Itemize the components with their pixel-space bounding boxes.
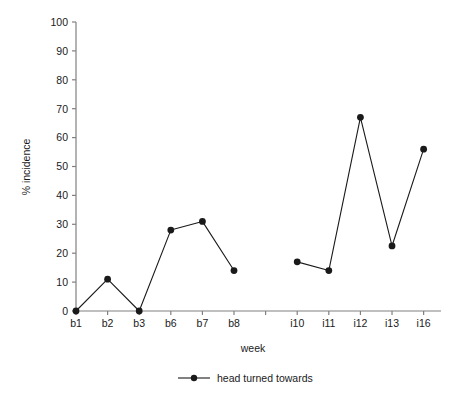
- x-axis-tick-label: b1: [70, 317, 82, 329]
- legend-marker-icon: [191, 375, 197, 381]
- y-axis-tick-label: 60: [56, 131, 68, 143]
- data-point-marker: [325, 267, 332, 274]
- line-chart: 0102030405060708090100 b1b2b3b6b7b8i10i1…: [0, 0, 455, 400]
- y-axis-title: % incidence: [20, 139, 32, 196]
- x-axis-tick-label: b6: [165, 317, 177, 329]
- x-axis-tick-label: b8: [228, 317, 240, 329]
- y-axis-tick-label: 80: [56, 74, 68, 86]
- y-axis-tick-label: 10: [56, 276, 68, 288]
- y-axis-tick-label: 100: [50, 16, 68, 28]
- x-axis-tick-label: b7: [197, 317, 209, 329]
- y-axis-tick-label: 40: [56, 189, 68, 201]
- data-point-marker: [231, 267, 238, 274]
- x-axis-title: week: [240, 342, 266, 354]
- chart-background: [0, 0, 455, 400]
- data-point-marker: [136, 308, 143, 315]
- data-point-marker: [167, 227, 174, 234]
- y-axis-tick-label: 50: [56, 160, 68, 172]
- y-axis-tick-label: 30: [56, 218, 68, 230]
- data-point-marker: [73, 308, 80, 315]
- y-axis-tick-label: 20: [56, 247, 68, 259]
- y-axis-tick-label: 70: [56, 103, 68, 115]
- x-axis-tick-label: b2: [102, 317, 114, 329]
- x-axis-tick-label: i10: [290, 317, 304, 329]
- data-point-marker: [357, 114, 364, 121]
- data-point-marker: [389, 243, 396, 250]
- x-axis-tick-label: i13: [385, 317, 399, 329]
- chart-figure: 0102030405060708090100 b1b2b3b6b7b8i10i1…: [0, 0, 455, 400]
- x-axis-tick-label: b3: [133, 317, 145, 329]
- data-point-marker: [104, 276, 111, 283]
- y-axis-tick-label: 0: [62, 305, 68, 317]
- y-axis-tick-label: 90: [56, 45, 68, 57]
- data-point-marker: [294, 258, 301, 265]
- x-axis-tick-label: i12: [353, 317, 367, 329]
- legend-label: head turned towards: [217, 372, 313, 384]
- x-axis-tick-label: i16: [417, 317, 431, 329]
- x-axis-tick-label: i11: [322, 317, 335, 329]
- data-point-marker: [199, 218, 206, 225]
- data-point-marker: [420, 146, 427, 153]
